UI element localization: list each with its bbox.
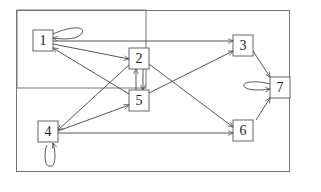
node-label: 4 (45, 124, 52, 139)
node-label: 3 (240, 38, 247, 53)
edge-5-3 (149, 51, 233, 93)
node-5: 5 (129, 90, 149, 111)
edge-1-1 (53, 28, 83, 39)
edge-5-1 (53, 48, 129, 94)
node-label: 7 (277, 80, 284, 95)
node-4: 4 (38, 121, 58, 142)
edge-1-2 (53, 44, 129, 59)
node-label: 2 (136, 51, 143, 66)
node-2: 2 (129, 48, 149, 69)
node-1: 1 (33, 30, 53, 51)
node-6: 6 (233, 120, 253, 141)
node-7: 7 (270, 77, 290, 98)
edge-2-6 (149, 64, 233, 127)
node-label: 1 (40, 33, 47, 48)
node-label: 6 (240, 123, 247, 138)
edge-2-4 (58, 65, 129, 130)
edge-7-7 (244, 82, 270, 90)
edge-6-7 (256, 98, 270, 120)
node-label: 5 (136, 93, 143, 108)
edge-4-5 (58, 105, 129, 131)
edge-4-4 (45, 143, 55, 166)
graph-final: 1 2 3 4 5 6 7 (0, 0, 321, 192)
edge-3-7 (253, 51, 270, 77)
node-3: 3 (233, 35, 253, 56)
